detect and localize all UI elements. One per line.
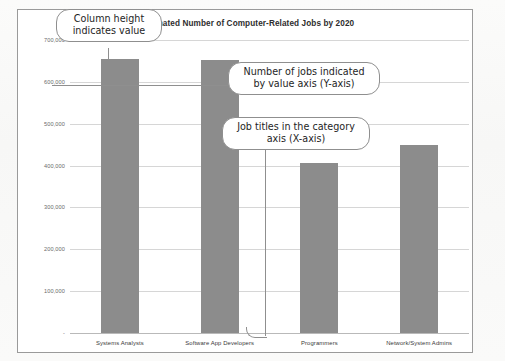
x-axis-category-label: Network/System Admins [386,340,452,346]
chart-bar[interactable] [201,60,239,333]
callout-2-leader-line [52,85,229,86]
callout-1-line-2: indicates value [65,25,153,37]
callout-value-axis: Number of jobs indicated by value axis (… [228,62,380,95]
callout-3-leader-curve [246,327,267,338]
excel-chart-object[interactable]: Estimated Number of Computer-Related Job… [17,9,473,353]
y-axis-tick-label: 100,000 [44,288,65,294]
callout-column-height: Column height indicates value [56,9,162,42]
callout-3-leader-line [265,150,266,336]
callout-3-line-1: Job titles in the category [231,121,361,133]
y-axis-tick-label: 400,000 [44,163,65,169]
x-axis-category-label: Software App Developers [185,340,254,346]
callout-2-line-2: by value axis (Y-axis) [237,78,371,90]
y-axis-tick-label: 500,000 [44,121,65,127]
callout-2-line-1: Number of jobs indicated [237,66,371,78]
callout-3-line-2: axis (X-axis) [231,133,361,145]
y-axis-tick-label: 300,000 [44,204,65,210]
x-axis-category-label: Programmers [301,340,338,346]
callout-1-leader-line [108,48,109,60]
category-axis-line [70,333,469,334]
chart-title: Estimated Number of Computer-Related Job… [140,19,354,28]
callout-category-axis: Job titles in the category axis (X-axis) [222,117,370,150]
y-axis-tick-label: 600,000 [44,79,65,85]
y-axis-tick-label: 200,000 [44,246,65,252]
chart-bar[interactable] [300,163,338,333]
chart-bar[interactable] [400,145,438,333]
x-axis-category-label: Systems Analysts [96,340,144,346]
y-axis-tick-label: - [63,330,65,336]
callout-1-line-1: Column height [65,13,153,25]
chart-bar[interactable] [101,59,139,333]
